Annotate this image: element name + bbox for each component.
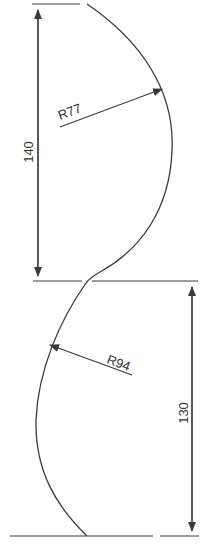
radius-label-r94: R94: [105, 352, 133, 374]
technical-drawing: 140 130 R77 R94: [0, 0, 212, 559]
upper-arc-r77: [86, 4, 172, 283]
dimension-label-130: 130: [176, 402, 191, 424]
dimension-label-140: 140: [21, 141, 36, 163]
lower-arc-r94: [36, 283, 87, 536]
